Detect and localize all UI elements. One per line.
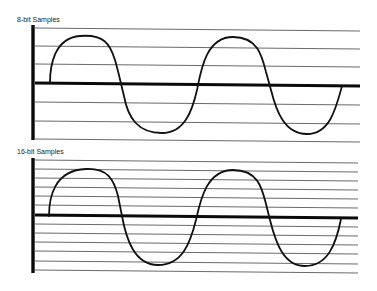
sampling-diagram — [0, 0, 377, 291]
quantization-level-line — [35, 160, 358, 163]
quantization-level-line — [35, 121, 360, 124]
quantization-level-line — [35, 187, 358, 190]
quantization-level-line — [35, 28, 360, 31]
quantization-level-line — [35, 270, 358, 273]
quantization-level-line — [35, 224, 358, 227]
quantization-level-line — [35, 139, 360, 142]
quantization-level-line — [35, 242, 358, 245]
quantization-level-line — [35, 233, 358, 236]
quantization-level-line — [35, 251, 358, 254]
panel-8bit-samples — [33, 25, 360, 142]
quantization-level-line — [35, 205, 358, 208]
quantization-level-line — [35, 102, 360, 105]
panel-16bit-samples — [33, 158, 358, 273]
quantization-level-line — [35, 64, 360, 67]
quantization-level-line — [35, 261, 358, 264]
quantization-level-line — [35, 46, 360, 49]
quantization-level-line — [35, 178, 358, 181]
quantization-level-line — [35, 196, 358, 199]
